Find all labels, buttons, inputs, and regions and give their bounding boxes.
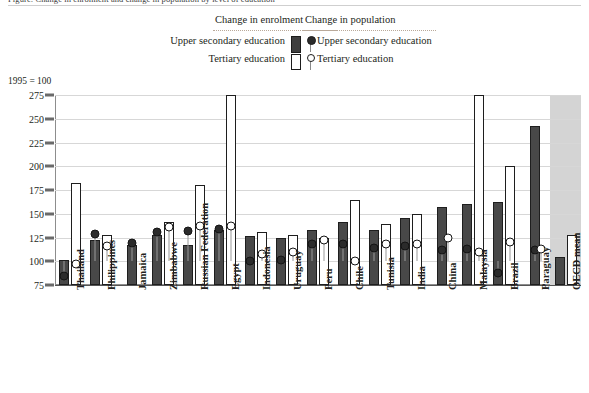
bar-enrolment-upper-secondary <box>555 257 565 286</box>
legend-label-population-upper: Upper secondary education <box>317 35 432 46</box>
y-tick-label-100: 100 <box>8 256 44 267</box>
y-tick-label-250: 250 <box>8 113 44 124</box>
x-tick-label: Jamaica <box>137 253 148 290</box>
legend-label-population-tertiary: Tertiary education <box>317 53 394 64</box>
y-tick-225 <box>45 141 54 144</box>
category-group <box>426 95 457 285</box>
x-tick-label: Uruguay <box>292 250 303 290</box>
y-tick-label-150: 150 <box>8 208 44 219</box>
legend-divider-population <box>303 30 436 32</box>
x-tick-label: OECD mean <box>571 233 582 290</box>
y-tick-200 <box>45 165 54 168</box>
x-tick-label: Peru <box>323 268 334 290</box>
y-tick-100 <box>45 260 54 263</box>
category-group <box>303 95 334 285</box>
x-tick-label: Chile <box>354 266 365 290</box>
y-tick-250 <box>45 117 54 120</box>
x-tick-label: Philippines <box>106 240 117 290</box>
y-tick-275 <box>45 94 54 97</box>
y-tick-label-225: 225 <box>8 137 44 148</box>
y-tick-175 <box>45 189 54 192</box>
legend-heading-population: Change in population <box>305 14 395 25</box>
y-tick-label-200: 200 <box>8 161 44 172</box>
category-group <box>395 95 426 285</box>
x-tick-label: Brazil <box>509 263 520 290</box>
category-group <box>488 95 519 285</box>
x-tick-label: Tunisia <box>385 257 396 290</box>
x-tick-label: Egypt <box>230 263 241 290</box>
x-tick-label: Zimbabwe <box>168 242 179 290</box>
legend-label-enrolment-tertiary: Tertiary education <box>100 53 285 64</box>
gridline-75 <box>55 285 581 286</box>
category-group <box>333 95 364 285</box>
y-axis-note: 1995 = 100 <box>8 76 51 86</box>
category-group <box>210 95 241 285</box>
x-tick-label: Indonesia <box>261 246 272 290</box>
top-rule <box>8 5 581 6</box>
x-tick-label: Thailand <box>75 249 86 290</box>
chart-page: Figure: Change in enrolment and change i… <box>0 0 589 393</box>
y-tick-label-75: 75 <box>8 280 44 291</box>
x-tick-label: Paraguay <box>540 247 551 290</box>
legend-heading-enrolment: Change in enrolment <box>215 14 303 25</box>
open-bar-swatch <box>291 54 301 70</box>
legend-label-enrolment-upper: Upper secondary education <box>100 35 285 46</box>
open-dot-marker-icon <box>305 54 317 70</box>
x-tick-label: Malaysia <box>478 249 489 290</box>
x-tick-label: China <box>447 263 458 290</box>
y-tick-150 <box>45 212 54 215</box>
filled-dot-marker-icon <box>305 36 317 52</box>
y-tick-label-125: 125 <box>8 232 44 243</box>
x-tick-label: Russian Federation <box>199 203 210 290</box>
y-tick-label-275: 275 <box>8 90 44 101</box>
y-tick-125 <box>45 236 54 239</box>
y-tick-75 <box>45 284 54 287</box>
y-tick-label-175: 175 <box>8 185 44 196</box>
cut-off-figure-title: Figure: Change in enrolment and change i… <box>8 0 581 4</box>
x-tick-label: India <box>416 266 427 290</box>
chart-legend: Change in enrolment Change in population… <box>0 14 589 76</box>
plot-area <box>55 95 581 285</box>
filled-bar-swatch <box>291 36 301 53</box>
